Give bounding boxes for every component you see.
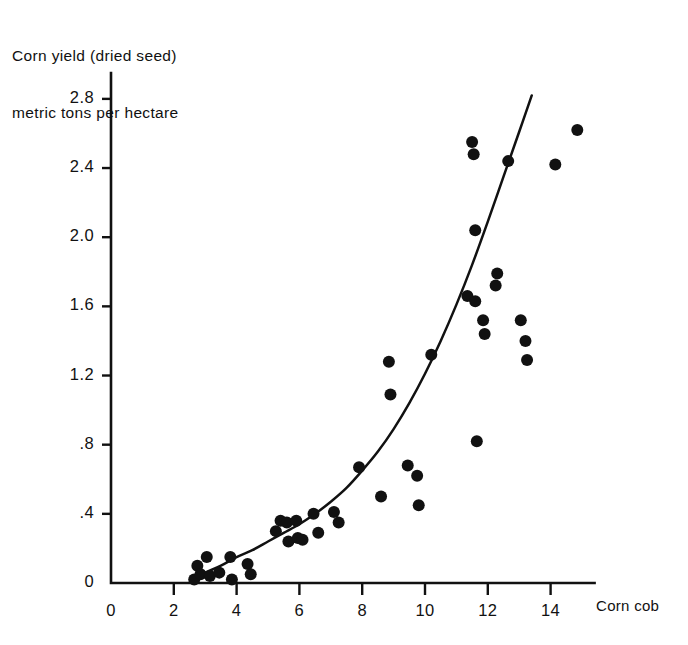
data-point [471,435,483,447]
data-point [328,506,340,518]
data-point [245,568,257,580]
x-tick-label: 12 [465,601,511,620]
x-tick-label: 6 [276,601,322,620]
data-point [519,335,531,347]
data-point [333,516,345,528]
data-point [353,461,365,473]
y-tick-label: 0 [38,572,94,591]
axis-tickmarks [102,99,551,595]
data-points [188,124,583,586]
data-point [290,515,302,527]
data-point [502,155,514,167]
data-point [375,491,387,503]
x-axis-label: Corn cob length (in cm.) [596,558,659,645]
data-point [201,551,213,563]
x-tick-label: 0 [88,601,134,620]
y-tick-label: .8 [38,434,94,453]
y-tick-label: 2.8 [38,88,94,107]
data-point [402,459,414,471]
x-tick-label: 8 [339,601,385,620]
y-axis-label-line-2: metric tons per hectare [12,103,179,122]
y-tick-label: 2.0 [38,226,94,245]
x-tick-label: 10 [402,601,448,620]
data-point [213,567,225,579]
data-point [468,148,480,160]
data-point [491,268,503,280]
data-point [413,499,425,511]
data-point [270,525,282,537]
data-point [384,389,396,401]
data-point [411,470,423,482]
data-point [549,159,561,171]
data-point [224,551,236,563]
y-tick-label: 2.4 [38,157,94,176]
axis-lines [111,73,595,583]
x-tick-label: 2 [151,601,197,620]
data-point [521,354,533,366]
data-point [383,356,395,368]
data-point [469,295,481,307]
data-point [479,328,491,340]
y-tick-label: .4 [38,503,94,522]
data-point [490,280,502,292]
y-axis-label-line-1: Corn yield (dried seed) [12,46,179,65]
data-point [425,349,437,361]
data-point [297,534,309,546]
y-tick-label: 1.2 [38,365,94,384]
data-point [466,136,478,148]
data-point [242,558,254,570]
x-tick-label: 4 [214,601,260,620]
x-axis-label-line-1: Corn cob [596,596,659,615]
y-axis-label: Corn yield (dried seed) metric tons per … [12,8,179,160]
y-tick-label: 1.6 [38,295,94,314]
x-tick-label: 14 [528,601,574,620]
data-point [226,574,238,586]
data-point [308,508,320,520]
data-point [477,314,489,326]
data-point [571,124,583,136]
data-point [312,527,324,539]
data-point [469,224,481,236]
data-point [515,314,527,326]
chart-figure: Corn yield (dried seed) metric tons per … [0,0,688,645]
